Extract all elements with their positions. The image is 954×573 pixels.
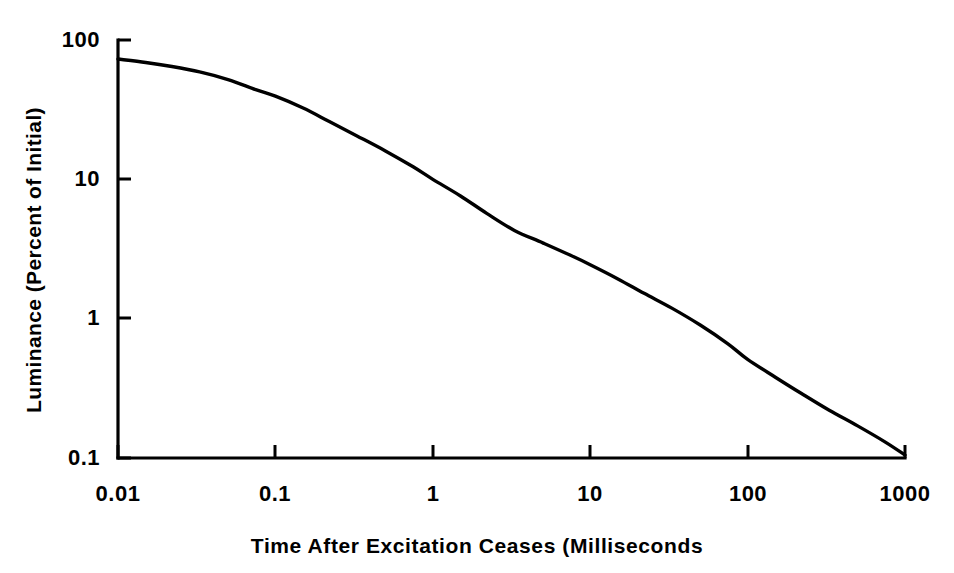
x-tick-label-1: 1 bbox=[427, 481, 440, 507]
x-tick-label-0.01: 0.01 bbox=[96, 481, 141, 507]
x-tick-label-10: 10 bbox=[577, 481, 602, 507]
x-axis-title: Time After Excitation Ceases (Millisecon… bbox=[0, 534, 954, 558]
x-tick-label-0.1: 0.1 bbox=[259, 481, 291, 507]
y-axis-ticks bbox=[118, 40, 131, 458]
plot-area bbox=[0, 0, 954, 573]
chart-container: 100 10 1 0.1 0.01 0.1 1 10 100 1000 Time… bbox=[0, 0, 954, 573]
x-axis-ticks bbox=[118, 445, 905, 458]
axes bbox=[118, 40, 905, 458]
decay-curve-line bbox=[118, 59, 905, 455]
x-tick-label-100: 100 bbox=[729, 481, 767, 507]
x-tick-label-1000: 1000 bbox=[880, 481, 931, 507]
y-axis-title: Luminance (Percent of Initial) bbox=[22, 20, 46, 500]
